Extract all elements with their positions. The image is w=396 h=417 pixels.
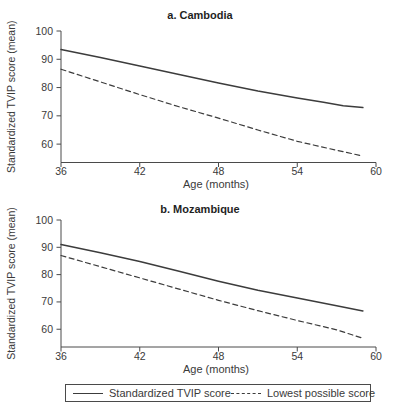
x-tick-label: 36 — [55, 165, 67, 177]
y-tick-label: 60 — [41, 323, 53, 335]
chart-svg: a. Cambodia100908070603642485460Age (mon… — [0, 0, 396, 196]
chart-panel-cambodia: a. Cambodia100908070603642485460Age (mon… — [0, 0, 396, 196]
y-tick-label: 70 — [41, 109, 53, 121]
y-tick-label: 80 — [41, 81, 53, 93]
y-tick-label: 90 — [41, 53, 53, 65]
x-tick-label: 48 — [213, 165, 225, 177]
legend-label-standardized-score: Standardized TVIP score — [109, 387, 231, 399]
x-tick-label: 60 — [370, 350, 382, 362]
series-line-standardized-score — [61, 245, 363, 311]
series-line-lowest-possible — [61, 256, 363, 339]
x-tick-label: 54 — [291, 165, 303, 177]
y-tick-label: 100 — [35, 25, 53, 37]
dashed-line-sample-icon — [231, 393, 261, 394]
x-tick-label: 54 — [291, 350, 303, 362]
axes-spine — [61, 31, 376, 163]
figure-tvip-scores: a. Cambodia100908070603642485460Age (mon… — [0, 0, 396, 417]
y-tick-label: 60 — [41, 138, 53, 150]
legend-label-lowest-possible: Lowest possible score — [267, 387, 375, 399]
legend-item-standardized-score: Standardized TVIP score — [73, 387, 231, 399]
x-axis-label: Age (months) — [183, 178, 249, 190]
y-tick-label: 80 — [41, 268, 53, 280]
x-tick-label: 42 — [134, 350, 146, 362]
x-tick-label: 36 — [55, 350, 67, 362]
x-tick-label: 42 — [134, 165, 146, 177]
solid-line-sample-icon — [73, 393, 103, 394]
y-tick-label: 100 — [35, 214, 53, 226]
legend-item-lowest-possible: Lowest possible score — [231, 387, 375, 399]
y-axis-label: Standardized TVIP score (mean) — [5, 20, 17, 173]
series-line-standardized-score — [61, 49, 363, 107]
chart-svg: b. Mozambique100908070603642485460Age (m… — [0, 196, 396, 378]
y-tick-label: 70 — [41, 295, 53, 307]
chart-title: b. Mozambique — [160, 203, 239, 215]
y-axis-label: Standardized TVIP score (mean) — [5, 207, 17, 360]
x-tick-label: 60 — [370, 165, 382, 177]
legend: Standardized TVIP score Lowest possible … — [65, 384, 371, 402]
chart-panel-mozambique: b. Mozambique100908070603642485460Age (m… — [0, 196, 396, 378]
x-tick-label: 48 — [213, 350, 225, 362]
x-axis-label: Age (months) — [183, 363, 249, 375]
chart-title: a. Cambodia — [167, 9, 233, 21]
y-tick-label: 90 — [41, 241, 53, 253]
